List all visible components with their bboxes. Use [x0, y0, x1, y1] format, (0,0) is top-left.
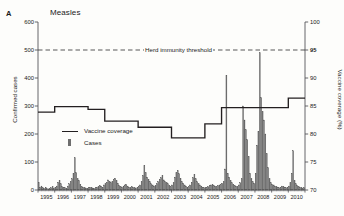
- case-bar: [241, 179, 242, 190]
- case-bar: [244, 120, 245, 190]
- case-bar: [84, 188, 85, 190]
- case-bar: [293, 151, 294, 190]
- y-tick-label-left: 0: [8, 187, 34, 193]
- y-tick-label-right: 80: [310, 131, 330, 137]
- vaccine-coverage-line: [38, 98, 305, 138]
- case-bar: [94, 188, 95, 190]
- case-bar: [202, 187, 203, 190]
- case-bar: [161, 178, 162, 190]
- case-bar: [262, 112, 263, 190]
- case-bar: [229, 177, 230, 190]
- case-bar: [226, 75, 227, 190]
- case-bar: [276, 187, 277, 190]
- y-tick-label-right: 100: [310, 19, 330, 25]
- chart-title: Measles: [50, 8, 81, 17]
- case-bar: [273, 185, 274, 190]
- case-bar: [280, 187, 281, 190]
- case-bar: [79, 180, 80, 190]
- y-tick-label-right: 90: [310, 75, 330, 81]
- case-bar: [136, 188, 137, 190]
- case-bar: [219, 185, 220, 190]
- case-bar: [263, 120, 264, 190]
- case-bar: [258, 131, 259, 190]
- case-bar: [60, 184, 61, 190]
- y-tick-label-left: 500: [8, 47, 34, 53]
- threshold-label: Herd immunity threshold: [144, 46, 213, 53]
- case-bar: [126, 184, 127, 190]
- case-bar: [77, 179, 78, 190]
- case-bar: [212, 184, 213, 190]
- case-bar: [65, 188, 66, 190]
- y-tick-label-right: 95: [310, 47, 330, 53]
- case-bar: [206, 187, 207, 190]
- case-bar: [72, 179, 73, 190]
- case-bar: [87, 188, 88, 190]
- case-bar: [259, 53, 260, 190]
- case-bar: [251, 179, 252, 190]
- case-bar: [298, 187, 299, 190]
- case-bar: [152, 185, 153, 190]
- case-bar: [127, 186, 128, 190]
- case-bar: [145, 173, 146, 190]
- case-bar: [193, 178, 194, 190]
- case-bar: [222, 183, 223, 190]
- case-bar: [184, 185, 185, 190]
- case-bar: [163, 180, 164, 190]
- case-bar: [261, 98, 262, 190]
- case-bar: [111, 183, 112, 190]
- case-bar: [91, 187, 92, 190]
- case-bar: [62, 187, 63, 190]
- case-bar: [243, 106, 244, 190]
- case-bar: [119, 186, 120, 190]
- case-bar: [138, 186, 139, 190]
- case-bar: [201, 186, 202, 190]
- case-bar: [250, 173, 251, 190]
- case-bar: [59, 180, 60, 190]
- y-tick-label-right: 85: [310, 103, 330, 109]
- case-bar: [297, 186, 298, 190]
- case-bar: [159, 179, 160, 190]
- case-bar: [38, 182, 39, 190]
- y-tick-label-left: 300: [8, 103, 34, 109]
- case-bar: [205, 188, 206, 190]
- case-bar: [55, 187, 56, 190]
- case-bar: [58, 182, 59, 190]
- x-tick-label: 2010: [286, 194, 308, 200]
- case-bar: [90, 187, 91, 190]
- case-bar: [181, 182, 182, 190]
- case-bar: [233, 184, 234, 190]
- case-bar: [254, 183, 255, 190]
- y-tick-label-left: 100: [8, 159, 34, 165]
- case-bar: [169, 186, 170, 190]
- case-bar: [155, 186, 156, 190]
- case-bar: [265, 134, 266, 190]
- case-bar: [284, 187, 285, 190]
- case-bar: [85, 188, 86, 190]
- case-bar: [282, 186, 283, 190]
- case-bar: [97, 187, 98, 190]
- case-bar: [49, 188, 50, 190]
- case-bar: [302, 188, 303, 190]
- case-bar: [257, 145, 258, 190]
- case-bar: [277, 187, 278, 190]
- case-bar: [209, 186, 210, 190]
- case-bar: [137, 187, 138, 190]
- case-bar: [248, 156, 249, 190]
- case-bar: [279, 188, 280, 190]
- case-bar: [44, 188, 45, 190]
- case-bar: [172, 185, 173, 190]
- case-bar: [200, 185, 201, 190]
- case-bar: [99, 186, 100, 190]
- case-bar: [51, 188, 52, 190]
- case-bar: [231, 183, 232, 190]
- case-bar: [47, 189, 48, 190]
- y-axis-left-label: Confirmed cases: [11, 45, 18, 155]
- case-bar: [194, 174, 195, 190]
- y-tick-label-left: 400: [8, 75, 34, 81]
- case-bar: [290, 183, 291, 190]
- case-bar: [134, 188, 135, 190]
- case-bar: [218, 186, 219, 190]
- case-bar: [101, 186, 102, 190]
- case-bar: [266, 154, 267, 190]
